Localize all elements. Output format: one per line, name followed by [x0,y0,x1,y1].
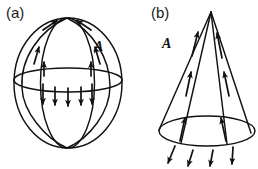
cone-arrow-down-4 [232,147,233,164]
sphere-meridian-tilted-right [67,18,110,148]
panel-b-cone: (b) A [129,0,258,169]
panel-a-sphere: (a) A [0,0,129,169]
panel-a-field-label: A [94,39,103,55]
panel-b-field-label: A [162,36,171,52]
sphere-arrow-up-left-mid [34,47,39,64]
cone-arrow-down-1 [168,146,175,163]
panel-a-caption: (a) [6,4,24,21]
cone-edge-left [159,12,211,130]
figure-container: (a) A [0,0,258,169]
sphere-outline [14,18,122,148]
panel-b-caption: (b) [151,4,169,21]
sphere-diagram-svg [0,0,129,169]
cone-base-ellipse [159,116,255,146]
cone-arrow-down-3 [210,150,213,166]
cone-edge-right [211,12,251,133]
cone-arrow-down-2 [188,150,193,166]
sphere-meridian-wide [41,18,95,148]
cone-line-inner-left [181,12,211,143]
cone-diagram-svg [129,0,258,169]
cone-arrow-up-right-mid [224,72,229,96]
cone-arrow-up-left-mid [186,72,191,96]
